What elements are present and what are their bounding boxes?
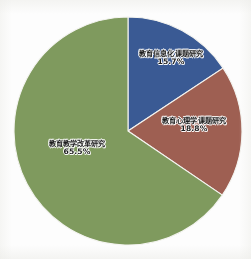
pie-chart-canvas — [0, 0, 251, 259]
pie-slices — [14, 17, 242, 245]
pie-chart-figure: 教育信息化课题研究 15.7% 教育心理学课题研究 18.8% 教育教学改革研究… — [0, 0, 251, 259]
